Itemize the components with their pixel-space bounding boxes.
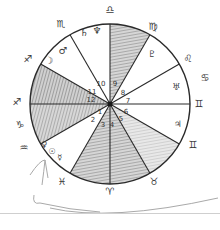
planet-mars: ♂ [59,45,68,56]
astrology-chart: ♎ ♍ ♌ ♋ ♊ ♊ ♉ ♈ ♓ ♒ ♑ ♐ ♐ ♏ ♄ ♆ ☽ ♂ ♇ ♅ … [0,0,220,230]
house-8: 8 [121,89,125,97]
house-5: 5 [119,115,123,123]
house-3: 3 [101,121,105,129]
house-2: 2 [91,116,95,124]
house-12: 12 [87,96,96,104]
planet-uranus: ♅ [172,82,180,92]
chart-center-dot [108,102,113,107]
sign-virgo: ♍ [149,21,158,32]
sign-taurus: ♉ [150,176,159,187]
sign-aquarius: ♒ [20,142,29,153]
sign-cancer: ♋ [201,72,210,83]
house-7: 7 [126,97,130,105]
sign-scorpio: ♏ [57,18,66,29]
sketch-arrow [30,160,48,185]
sign-sagittarius-mid: ♐ [13,96,22,107]
house-1: 1 [98,108,102,116]
planet-pluto: ♇ [148,49,156,59]
planet-jupiter: ♃ [174,119,182,129]
sign-pisces: ♓ [58,176,67,187]
sign-gemini-bottom: ♊ [189,139,198,150]
house-9: 9 [113,80,117,88]
sketch-curve-bottom [50,198,218,213]
bottom-divider [0,213,220,214]
sign-capricorn: ♑ [16,119,25,130]
sign-sagittarius-top: ♐ [24,53,33,64]
planet-neptune: ♆ [93,25,102,36]
sign-gemini-top: ♊ [195,98,204,109]
sign-leo: ♌ [184,53,193,64]
planet-sun: ☉ [48,147,55,156]
planet-moon: ☽ [45,55,54,66]
planet-saturn: ♄ [80,27,89,38]
sketch-curve-left [34,195,100,212]
house-10: 10 [97,80,106,88]
house-6: 6 [124,108,129,116]
sign-libra: ♎ [106,4,115,15]
planet-venus: ♀ [41,140,47,149]
house-11: 11 [88,88,97,96]
sign-aries: ♈ [106,186,115,197]
planet-mercury: ☿ [58,153,63,162]
house-4: 4 [110,121,115,129]
